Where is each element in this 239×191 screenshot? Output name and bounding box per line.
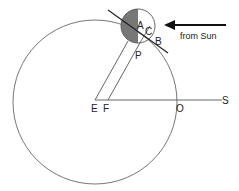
line-E-to-moon bbox=[95, 41, 128, 100]
label-S: S bbox=[222, 95, 229, 106]
label-O: O bbox=[176, 103, 184, 114]
arrow-caption: from Sun bbox=[180, 31, 217, 41]
orbit-circle bbox=[13, 20, 177, 184]
label-E: E bbox=[91, 103, 98, 114]
sun-arrow-head-icon bbox=[164, 20, 175, 30]
label-P: P bbox=[135, 50, 142, 61]
label-B: B bbox=[155, 36, 162, 47]
label-A: A bbox=[137, 20, 144, 31]
label-C: C bbox=[145, 26, 152, 37]
diagram-canvas: A C B P E F O S from Sun bbox=[0, 0, 239, 191]
label-F: F bbox=[103, 103, 109, 114]
